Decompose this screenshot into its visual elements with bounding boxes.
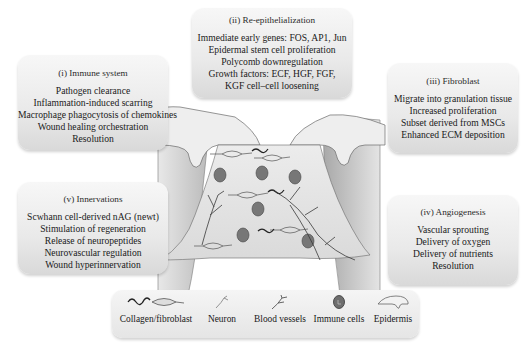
box-title: (iii) Fibroblast bbox=[388, 76, 518, 86]
box-line: Resolution bbox=[388, 260, 518, 272]
box-line: Inflammation-induced scarring bbox=[18, 97, 168, 109]
box-line: Neurovascular regulation bbox=[18, 247, 168, 259]
box-line: Subset derived from MSCs bbox=[388, 117, 518, 129]
legend-label: Blood vessels bbox=[248, 314, 312, 324]
epidermis-icon bbox=[376, 294, 410, 310]
blood-vessel-icon bbox=[268, 294, 292, 310]
box-line: Increased proliferation bbox=[388, 105, 518, 117]
box-line: Vascular sprouting bbox=[388, 224, 518, 236]
box-line: Macrophage phagocytosis of chemokines bbox=[18, 109, 168, 121]
angiogenesis-box: (iv) Angiogenesis Vascular sprouting Del… bbox=[388, 195, 518, 285]
legend-item-collagen-fibroblast: Collagen/fibroblast bbox=[118, 294, 194, 324]
re-epithelialization-box: (ii) Re-epithelialization Immediate earl… bbox=[192, 8, 352, 98]
legend-label: Epidermis bbox=[368, 314, 418, 324]
legend-item-epidermis: Epidermis bbox=[368, 294, 418, 324]
legend-label: Collagen/fibroblast bbox=[118, 314, 194, 324]
box-line: Epidermal stem cell proliferation bbox=[192, 44, 352, 56]
legend: Collagen/fibroblast Neuron Blood vessels… bbox=[112, 290, 419, 338]
legend-item-immune-cells: Immune cells bbox=[308, 294, 370, 324]
box-line: Stimulation of regeneration bbox=[18, 223, 168, 235]
box-line: Immediate early genes: FOS, AP1, Jun bbox=[192, 32, 352, 44]
box-title: (iv) Angiogenesis bbox=[388, 207, 518, 217]
box-line: Scwhann cell-derived nAG (newt) bbox=[18, 211, 168, 223]
box-line: Release of neuropeptides bbox=[18, 235, 168, 247]
legend-item-blood-vessels: Blood vessels bbox=[248, 294, 312, 324]
box-line: Migrate into granulation tissue bbox=[388, 93, 518, 105]
wound-illustration bbox=[140, 95, 400, 295]
box-line: Delivery of nutrients bbox=[388, 248, 518, 260]
box-title: (i) Immune system bbox=[18, 68, 168, 78]
box-line: Delivery of oxygen bbox=[388, 236, 518, 248]
box-line: Enhanced ECM deposition bbox=[388, 129, 518, 141]
box-line: Resolution bbox=[18, 133, 168, 145]
box-line: Polycomb downregulation bbox=[192, 56, 352, 68]
box-title: (ii) Re-epithelialization bbox=[192, 15, 352, 25]
box-title: (v) Innervations bbox=[18, 194, 168, 204]
immune-cell-icon bbox=[331, 294, 347, 310]
box-line: Wound hyperinnervation bbox=[18, 259, 168, 271]
box-line: Wound healing orchestration bbox=[18, 121, 168, 133]
immune-system-box: (i) Immune system Pathogen clearance Inf… bbox=[18, 55, 168, 150]
innervations-box: (v) Innervations Scwhann cell-derived nA… bbox=[18, 182, 168, 274]
fibroblast-box: (iii) Fibroblast Migrate into granulatio… bbox=[388, 63, 518, 153]
box-line: Pathogen clearance bbox=[18, 85, 168, 97]
box-line: KGF cell–cell loosening bbox=[192, 80, 352, 92]
neuron-icon bbox=[212, 294, 232, 310]
legend-label: Neuron bbox=[200, 314, 244, 324]
collagen-fibroblast-icon bbox=[126, 294, 186, 310]
legend-item-neuron: Neuron bbox=[200, 294, 244, 324]
legend-label: Immune cells bbox=[308, 314, 370, 324]
box-line: Growth factors: ECF, HGF, FGF, bbox=[192, 68, 352, 80]
